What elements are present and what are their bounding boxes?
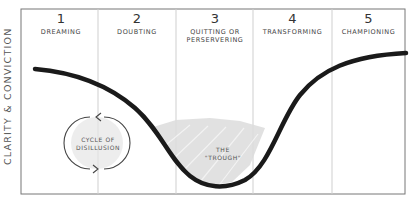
stage-dreaming: 1 DREAMING — [24, 12, 98, 36]
stage-name: QUITTING OR PERSERVERING — [180, 28, 250, 44]
cycle-label-line1: CYCLE OF — [76, 136, 120, 144]
cycle-of-disillusion-label: CYCLE OF DISILLUSION — [76, 136, 120, 152]
y-axis-label: CLARITY & CONVICTION — [2, 43, 16, 165]
stage-quitting-or-perservering: 3 QUITTING OR PERSERVERING — [180, 12, 250, 44]
trough-label-line2: "TROUGH" — [200, 154, 246, 162]
stage-name: CHAMPIONING — [332, 28, 405, 36]
stage-doubting: 2 DOUBTING — [98, 12, 176, 36]
trough-label-line1: THE — [200, 146, 246, 154]
stage-championing: 5 CHAMPIONING — [332, 12, 405, 36]
trough-label: THE "TROUGH" — [200, 146, 246, 162]
stage-name: DOUBTING — [98, 28, 176, 36]
stage-name: TRANSFORMING — [253, 28, 332, 36]
stage-number: 3 — [180, 12, 250, 26]
stage-name: DREAMING — [24, 28, 98, 36]
stage-transforming: 4 TRANSFORMING — [253, 12, 332, 36]
stage-number: 4 — [253, 12, 332, 26]
stage-number: 5 — [332, 12, 405, 26]
stage-number: 2 — [98, 12, 176, 26]
stage-number: 1 — [24, 12, 98, 26]
cycle-label-line2: DISILLUSION — [76, 144, 120, 152]
